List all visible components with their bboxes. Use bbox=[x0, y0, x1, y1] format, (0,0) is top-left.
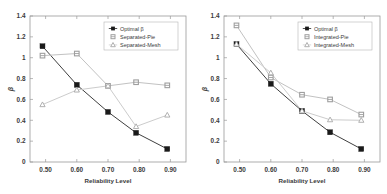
legend-marker-square bbox=[305, 27, 309, 31]
y-axis-title: β bbox=[7, 86, 15, 92]
legend-item-label: Optimal β bbox=[120, 26, 144, 32]
legend-item-label: Integrated-Pie bbox=[314, 34, 349, 40]
marker-circle bbox=[134, 80, 139, 85]
marker-circle bbox=[75, 51, 80, 56]
y-tick-label: 1 bbox=[22, 54, 26, 61]
marker-circle bbox=[299, 92, 304, 97]
legend-item-label: Integrated-Mesh bbox=[314, 42, 354, 48]
series-line bbox=[42, 54, 167, 86]
marker-square bbox=[165, 146, 170, 151]
y-tick-label: 1.2 bbox=[210, 33, 219, 40]
y-tick-label: 0.8 bbox=[210, 75, 219, 82]
y-tick-label: 0.6 bbox=[17, 96, 26, 103]
marker-square bbox=[40, 44, 45, 49]
y-tick-label: 0.2 bbox=[17, 137, 26, 144]
y-tick-label: 1.4 bbox=[17, 12, 26, 19]
marker-square bbox=[106, 109, 111, 114]
x-tick-label: 0.70 bbox=[295, 166, 308, 173]
marker-circle bbox=[165, 83, 170, 88]
marker-circle bbox=[327, 97, 332, 102]
x-tick-label: 0.60 bbox=[264, 166, 277, 173]
plot-area: 00.20.40.60.811.21.40.500.600.700.800.90… bbox=[194, 0, 387, 194]
series-line bbox=[42, 86, 167, 127]
legend-item-label: Optimal β bbox=[314, 26, 338, 32]
x-tick-label: 0.90 bbox=[358, 166, 371, 173]
marker-triangle bbox=[165, 112, 170, 117]
x-tick-label: 0.90 bbox=[164, 166, 177, 173]
y-tick-label: 0 bbox=[22, 158, 26, 165]
legend-item-label: Separated-Mesh bbox=[120, 42, 161, 48]
left-panel: 00.20.40.60.811.21.40.500.600.700.800.90… bbox=[0, 0, 194, 194]
right-panel: 00.20.40.60.811.21.40.500.600.700.800.90… bbox=[194, 0, 387, 194]
marker-square bbox=[134, 130, 139, 135]
x-tick-label: 0.80 bbox=[326, 166, 339, 173]
marker-square bbox=[327, 130, 332, 135]
x-tick-label: 0.50 bbox=[39, 166, 52, 173]
y-tick-label: 0 bbox=[215, 158, 219, 165]
y-tick-label: 0.4 bbox=[17, 117, 26, 124]
marker-square bbox=[358, 146, 363, 151]
legend-marker-square bbox=[111, 27, 115, 31]
plot-area: 00.20.40.60.811.21.40.500.600.700.800.90… bbox=[0, 0, 194, 194]
series-line bbox=[236, 44, 361, 120]
series-line bbox=[42, 46, 167, 149]
y-axis-title: β bbox=[201, 86, 209, 92]
x-tick-label: 0.70 bbox=[102, 166, 115, 173]
y-tick-label: 0.8 bbox=[17, 75, 26, 82]
y-tick-label: 1.4 bbox=[210, 12, 219, 19]
x-tick-label: 0.80 bbox=[133, 166, 146, 173]
y-tick-label: 0.6 bbox=[210, 96, 219, 103]
marker-triangle-body bbox=[165, 112, 170, 117]
x-tick-label: 0.50 bbox=[233, 166, 246, 173]
marker-square bbox=[268, 81, 273, 86]
y-tick-label: 1 bbox=[215, 54, 219, 61]
x-axis-title: Reliability Level bbox=[278, 177, 325, 184]
y-tick-label: 1.2 bbox=[17, 33, 26, 40]
marker-circle bbox=[40, 53, 45, 58]
legend: Optimal βIntegrated-PieIntegrated-Mesh bbox=[298, 22, 372, 50]
x-axis-title: Reliability Level bbox=[85, 177, 132, 184]
marker-circle bbox=[358, 112, 363, 117]
legend: Optimal βSeparated-PieSeparated-Mesh bbox=[104, 22, 178, 50]
marker-circle bbox=[234, 23, 239, 28]
y-tick-label: 0.4 bbox=[210, 117, 219, 124]
x-tick-label: 0.60 bbox=[71, 166, 84, 173]
legend-item-label: Separated-Pie bbox=[120, 34, 155, 40]
marker-circle bbox=[268, 75, 273, 80]
figure-container: 00.20.40.60.811.21.40.500.600.700.800.90… bbox=[0, 0, 387, 194]
y-tick-label: 0.2 bbox=[210, 137, 219, 144]
